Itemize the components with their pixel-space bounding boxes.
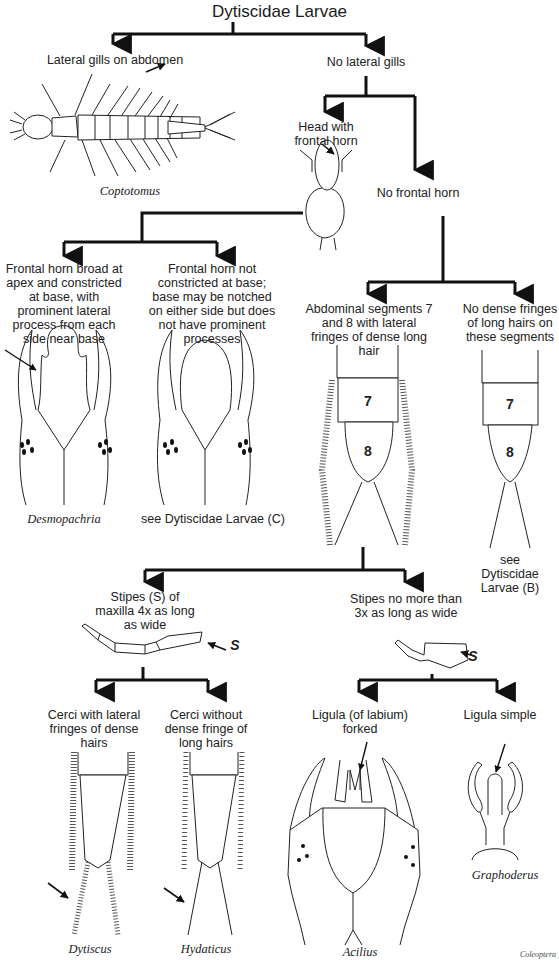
ref-see-b: see Dytiscidae Larvae (B) [470, 553, 550, 595]
credit-label: Coleoptera [520, 950, 556, 959]
stipes-s-label: S [466, 649, 480, 663]
desmopachria-drawing [5, 326, 112, 505]
taxon-desmopachria: Desmopachria [14, 512, 114, 527]
couplet-no-lateral-gills: No lateral gills [316, 55, 416, 69]
short-stipes-drawing [395, 640, 474, 668]
key-lines [0, 0, 559, 960]
taxon-coptotomus: Coptotomus [80, 184, 180, 199]
stipes-s-label: S [228, 638, 242, 652]
couplet-stipes-3x: Stipes no more than 3x as long as wide [344, 592, 468, 620]
couplet-ligula-simple: Ligula simple [450, 708, 550, 722]
dytiscus-drawing [48, 752, 132, 935]
couplet-horn-broad: Frontal horn broad at apex and constrict… [2, 262, 126, 346]
acilius-drawing [288, 742, 420, 945]
couplet-cerci-fringed: Cerci with lateral fringes of dense hair… [46, 708, 142, 750]
segment-8-label: 8 [500, 445, 520, 459]
coptotomus-drawing [10, 64, 235, 176]
graphoderus-drawing [468, 744, 522, 860]
couplet-stipes-4x: Stipes (S) of maxilla 4x as long as wide [90, 590, 200, 632]
segment-8-label: 8 [358, 444, 378, 458]
couplet-ligula-forked: Ligula (of labium) forked [308, 708, 412, 736]
segment-7-label: 7 [358, 394, 378, 408]
segment-7-label: 7 [500, 397, 520, 411]
couplet-cerci-no-fringe: Cerci without dense fringe of long hairs [162, 708, 250, 750]
couplet-no-frontal-horn: No frontal horn [368, 186, 468, 200]
taxon-hydaticus: Hydaticus [166, 942, 246, 957]
couplet-head-frontal-horn: Head with frontal horn [284, 120, 368, 148]
ref-see-c: see Dytiscidae Larvae (C) [138, 512, 288, 526]
taxon-graphoderus: Graphoderus [460, 868, 550, 883]
couplet-lateral-gills: Lateral gills on abdomen [40, 53, 190, 67]
frontal-horn-head-drawing [300, 140, 352, 250]
taxon-dytiscus: Dytiscus [50, 942, 130, 957]
couplet-segments-no-fringe: No dense fringes of long hairs on these … [462, 302, 558, 344]
taxon-acilius: Acilius [320, 945, 400, 960]
couplet-horn-not-constricted: Frontal horn not constricted at base; ba… [144, 262, 280, 346]
hydaticus-drawing [164, 752, 242, 935]
see-c-drawing [157, 330, 253, 505]
couplet-segments-fringed: Abdominal segments 7 and 8 with lateral … [304, 302, 434, 358]
